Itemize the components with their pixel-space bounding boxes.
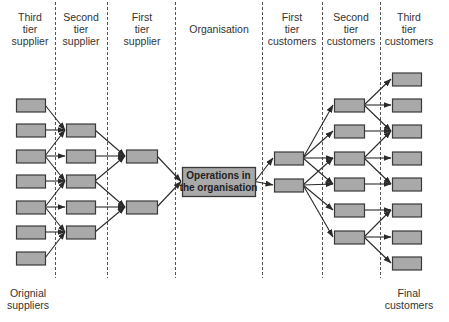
supply-network-graphic: Operations in the organisation [0,0,449,322]
tier-box-c2-0 [335,99,365,112]
tier-box-c2-2 [335,152,365,165]
tier-box-c2-4 [335,204,365,217]
tier-box-s2-4 [67,226,96,239]
tier-box-c3-7 [393,257,422,270]
tier-box-c3-3 [393,152,422,165]
flow-arrow [303,184,333,185]
header-second-tier-customers: Second tier customers [322,11,380,47]
flow-arrow [95,130,125,156]
tier-box-c1-0 [275,152,304,165]
tier-box-c3-0 [393,73,422,86]
tier-box-s2-2 [67,175,96,188]
tier-box-s3-6 [17,252,46,265]
flow-arrow [255,182,273,186]
tier-box-s3-5 [17,226,46,239]
flow-arrow [364,158,391,184]
flow-arrow [157,182,181,208]
header-second-tier-supplier: Second tier supplier [56,11,106,47]
tier-box-s3-1 [17,124,46,137]
flow-arrow [364,210,391,237]
flow-arrow [303,185,333,237]
flow-arrow [303,105,333,158]
flow-arrow [95,181,125,207]
tier-box-c2-3 [335,178,365,191]
flow-arrow [157,156,181,182]
organisation-box-line1: Operations in [186,170,250,181]
flow-arrow [364,131,391,158]
tier-box-s1-1 [127,201,158,214]
supply-chain-diagram: Operations in the organisation Third tie… [0,0,449,322]
tier-box-c3-6 [393,231,422,244]
tier-box-c3-1 [393,99,422,112]
organisation-box-line2: the organisation [180,182,258,193]
header-first-tier-supplier: First tier supplier [112,11,172,47]
flow-arrow [364,105,391,131]
tier-box-c2-1 [335,125,365,138]
flow-arrow [255,158,273,182]
tier-box-c3-2 [393,125,422,138]
header-third-tier-customers: Third tier customers [380,11,438,47]
tier-box-s1-0 [127,150,158,163]
flow-arrow [303,131,333,158]
tier-box-s2-3 [67,201,96,214]
tier-box-c2-5 [335,231,365,244]
header-first-tier-customers: First tier customers [262,11,322,47]
flow-arrow [364,237,391,263]
tier-box-s2-1 [67,150,96,163]
tier-box-c3-5 [393,204,422,217]
tier-box-s3-4 [17,201,46,214]
organisation-box: Operations in the organisation [180,168,258,197]
tier-box-s3-2 [17,150,46,163]
footer-original-suppliers: Orignial suppliers [0,287,56,311]
flow-arrow [303,185,333,210]
tier-box-c1-1 [275,179,304,192]
flow-arrow [364,79,391,105]
tier-box-s2-0 [67,124,96,137]
tier-box-s3-0 [17,99,46,112]
flow-arrow [95,156,125,181]
header-third-tier-supplier: Third tier supplier [0,11,60,47]
tier-box-c3-4 [393,178,422,191]
flow-arrow [95,207,125,232]
tier-box-s3-3 [17,175,46,188]
footer-final-customers: Final customers [380,287,438,311]
header-organisation: Organisation [180,23,258,35]
